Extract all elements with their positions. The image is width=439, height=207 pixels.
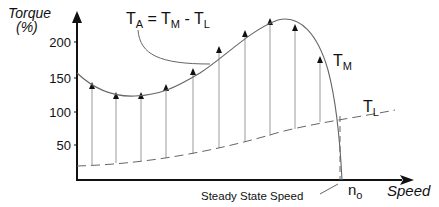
x-axis — [76, 175, 414, 185]
load-torque-curve — [77, 110, 395, 166]
y-tick-200: 200 — [49, 35, 71, 50]
arrowheads — [89, 18, 323, 99]
steady-state-leader-line — [320, 184, 338, 194]
y-axis — [72, 11, 82, 180]
motor-torque-label: TM — [333, 52, 352, 72]
no-speed-label: no — [348, 181, 362, 201]
torque-speed-diagram: Torque (%) 200 150 100 50 — [0, 0, 439, 207]
equation-leader-line — [138, 30, 210, 64]
load-torque-label: TL — [363, 98, 379, 118]
y-axis-title-line2: (%) — [16, 19, 38, 35]
acceleration-torque-arrows — [92, 24, 320, 165]
motor-torque-curve — [77, 19, 342, 180]
steady-state-label: Steady State Speed — [201, 190, 303, 202]
y-tick-150: 150 — [49, 71, 71, 86]
y-tick-50: 50 — [57, 138, 71, 153]
x-axis-title: Speed — [387, 182, 431, 199]
y-axis-arrow-icon — [72, 11, 82, 23]
equation-label: TA = TM - TL — [126, 10, 210, 30]
y-tick-100: 100 — [49, 105, 71, 120]
